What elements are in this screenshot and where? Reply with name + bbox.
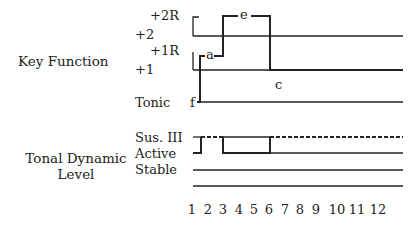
tick-2: 2 — [204, 202, 212, 217]
tick-7: 7 — [281, 202, 289, 217]
point-label-a: a — [206, 48, 214, 62]
tick-5: 5 — [250, 202, 258, 217]
dynamic-path — [193, 137, 201, 153]
point-label-f: f — [190, 96, 195, 110]
tick-1: 1 — [188, 202, 196, 217]
tick-10: 10 — [329, 202, 346, 217]
tick-9: 9 — [312, 202, 320, 217]
point-label-e: e — [240, 8, 248, 22]
tick-6: 6 — [265, 202, 273, 217]
tick-4: 4 — [235, 202, 243, 217]
point-label-c: c — [275, 78, 282, 92]
key-path-f-a — [197, 56, 205, 102]
tick-3: 3 — [219, 202, 227, 217]
tick-11: 11 — [349, 202, 366, 217]
key-path-e-c — [251, 16, 403, 70]
tick-8: 8 — [296, 202, 304, 217]
bracket-plus2R — [193, 17, 199, 36]
tick-12: 12 — [370, 202, 387, 217]
dynamic-path-2 — [223, 137, 270, 153]
diagram-lines — [0, 0, 416, 230]
